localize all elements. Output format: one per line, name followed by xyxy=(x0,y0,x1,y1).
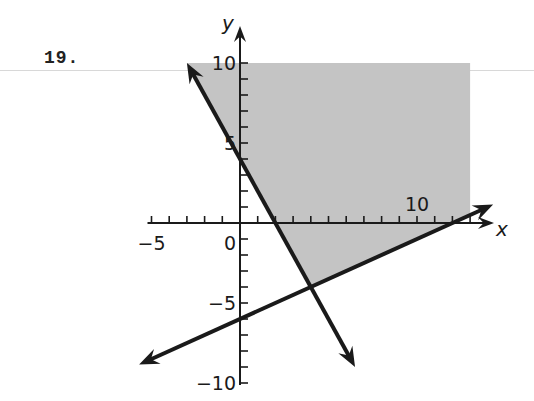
y-tick-label-10: 10 xyxy=(212,52,236,74)
x-tick-label-0: 0 xyxy=(224,232,236,254)
y-tick-label-neg10: −10 xyxy=(196,372,236,394)
y-tick-label-neg5: −5 xyxy=(208,292,236,314)
y-tick-label-5: 5 xyxy=(224,132,236,154)
x-tick-label-10: 10 xyxy=(405,193,429,215)
x-tick-label-neg5: −5 xyxy=(137,232,165,254)
x-axis-label: x xyxy=(495,217,508,241)
inequality-graph: −5010105−5−10xy xyxy=(0,0,534,401)
y-axis-label: y xyxy=(221,11,235,35)
